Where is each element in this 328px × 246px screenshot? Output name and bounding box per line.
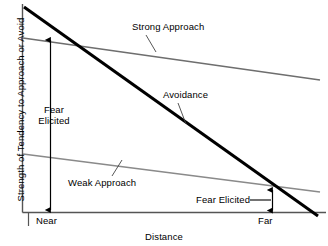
series-label-weak-approach: Weak Approach: [68, 178, 136, 189]
leader-line-strong-approach: [146, 35, 156, 52]
annotation-label-fear-near-line2: Elicited: [38, 115, 69, 126]
annotation-label-fear-far: Fear Elicited: [196, 195, 250, 206]
x-axis-title: Distance: [0, 231, 328, 242]
leader-line-weak-approach: [112, 160, 122, 176]
series-line-strong-approach: [23, 38, 320, 80]
figure-container: Strength of Tendency to Approach or Avoi…: [0, 0, 328, 246]
x-tick-label-near: Near: [36, 216, 57, 227]
series-label-strong-approach: Strong Approach: [132, 22, 204, 33]
y-axis-title: Strength of Tendency to Approach or Avoi…: [15, 5, 26, 215]
x-tick-label-far: Far: [258, 216, 273, 227]
annotation-label-fear-near-line1: Fear: [44, 104, 64, 115]
series-label-avoidance: Avoidance: [163, 90, 208, 101]
annotation-label-fear-near: Fear Elicited: [34, 105, 74, 126]
